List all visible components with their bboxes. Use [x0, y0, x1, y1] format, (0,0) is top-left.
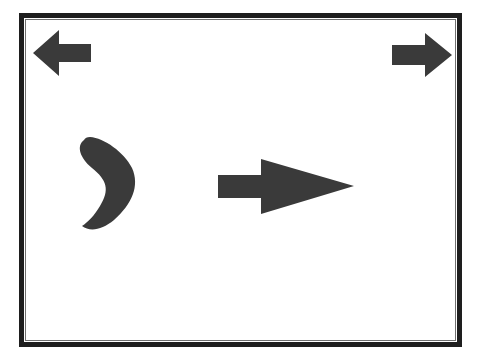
left-arrow-path — [33, 30, 91, 76]
crescent-icon: crescent opening left — [74, 134, 144, 232]
scene-stage: left-pointing arrow right-pointing arrow… — [0, 0, 483, 360]
crescent-path — [80, 137, 135, 229]
center-right-arrow-path — [218, 159, 354, 214]
right-arrow-path — [392, 33, 452, 77]
right-arrow-icon: right-pointing arrow — [392, 33, 452, 77]
shape-canvas: left-pointing arrow right-pointing arrow… — [0, 0, 483, 360]
center-right-arrow-icon: long right-pointing arrow — [214, 156, 354, 216]
left-arrow-icon: left-pointing arrow — [33, 30, 91, 76]
